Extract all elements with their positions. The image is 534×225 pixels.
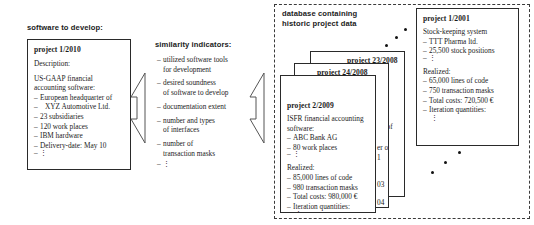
similarity-indicators-label-text: similarity indicators: — [155, 40, 231, 49]
summary-line-1: US-GAAP financial — [34, 74, 125, 84]
bullet-continuation-ellipsis: ⋮ — [34, 151, 125, 157]
list-item-line: transaction masks — [157, 149, 245, 159]
bullet-item: ABC Bank AG — [287, 133, 371, 143]
bullet-item-cont: XYZ Automotive Ltd. — [34, 102, 125, 112]
summary-continuation-ellipsis: ⋮ — [423, 56, 514, 62]
database-label: database containing historic project dat… — [282, 9, 357, 29]
summary-line-2: accounting software: — [34, 83, 125, 93]
similarity-continuation-ellipsis: ⋮ — [157, 162, 245, 168]
diagram-canvas: software to develop: project 1/2010 Desc… — [0, 0, 534, 225]
realized-continuation-ellipsis: ⋮ — [423, 117, 514, 120]
list-item-line: number of — [157, 139, 245, 149]
similarity-indicators-label: similarity indicators: — [155, 40, 231, 49]
bullet-item: 750 transaction masks — [423, 86, 514, 96]
list-item: utilized software tools for development — [157, 55, 245, 74]
project-card-title: project 1/2001 — [423, 14, 514, 23]
list-item-line: number and types — [157, 116, 245, 126]
project-card-2-2009[interactable]: project 2/2009 ISFR financial accounting… — [280, 75, 376, 213]
project-card-1-2010[interactable]: project 1/2010 Description: US-GAAP fina… — [27, 39, 131, 170]
bullet-item: 23 subsidiaries — [34, 112, 125, 122]
summary-line: Stock-keeping system — [423, 27, 514, 37]
project-card-title: project 2/2009 — [287, 101, 371, 110]
bullet-item: Total costs: 720,500 € — [423, 96, 514, 106]
database-label-line-2: historic project data — [282, 19, 357, 29]
peek-text: 04 — [377, 198, 384, 208]
bullet-item: European headquarter of — [34, 93, 125, 103]
summary-line-1: ISFR financial accounting — [287, 114, 371, 124]
project-card-title: project 1/2010 — [34, 45, 125, 54]
list-item: number of transaction masks — [157, 139, 245, 158]
list-item: desired soundness of software to develop — [157, 78, 245, 97]
bullet-item: 65,000 lines of code — [423, 76, 514, 86]
peek-text: er of — [377, 143, 384, 153]
bullet-item: TTT Pharma ltd. — [423, 37, 514, 47]
bullet-item: Iteration quantities: — [423, 105, 514, 115]
list-item-line: desired soundness — [157, 78, 245, 88]
software-to-develop-label-text: software to develop: — [27, 23, 103, 32]
arrow-indicators-to-database — [247, 72, 269, 148]
summary-continuation-ellipsis: ⋮ — [287, 152, 371, 158]
similarity-indicators-list: utilized software tools for development … — [157, 55, 245, 168]
bullet-item: 980 transaction masks — [287, 183, 371, 193]
peek-text: 1 — [377, 153, 384, 163]
summary-line-2: software: — [287, 124, 371, 134]
list-item: number and types of interfaces — [157, 116, 245, 135]
bullet-item: 25,500 stock positions — [423, 46, 514, 56]
list-item-line: utilized software tools — [157, 55, 245, 65]
list-item-line: for development — [157, 65, 245, 75]
peek-text: 03 — [377, 180, 384, 190]
bullet-item: Delivery-date: May 10 — [34, 141, 125, 151]
bullet-item: Iteration quantities: — [287, 202, 371, 212]
list-item-line: of interfaces — [157, 125, 245, 135]
list-item: documentation extent — [157, 102, 245, 112]
software-to-develop-label: software to develop: — [27, 23, 103, 32]
description-label: Description: — [34, 59, 125, 69]
realized-label: Realized: — [287, 163, 371, 173]
database-label-line-1: database containing — [282, 9, 357, 19]
bullet-item: IBM hardware — [34, 131, 125, 141]
project-card-1-2001[interactable]: project 1/2001 Stock-keeping system TTT … — [416, 8, 519, 146]
bullet-item: 85,000 lines of code — [287, 173, 371, 183]
bullet-item: 120 work places — [34, 122, 125, 132]
arrow-develop-to-indicators — [128, 72, 150, 148]
list-item-line: documentation extent — [157, 102, 245, 112]
realized-label: Realized: — [423, 67, 514, 77]
list-item-line: of software to develop — [157, 88, 245, 98]
bullet-item: Total costs: 980,000 € — [287, 192, 371, 202]
